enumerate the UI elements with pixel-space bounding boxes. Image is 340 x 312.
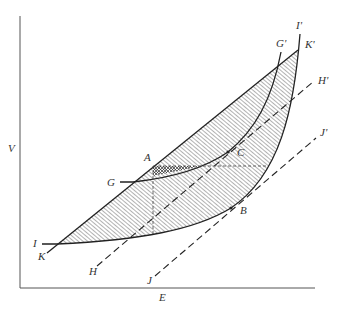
label-G: G <box>107 177 115 188</box>
label-J: J <box>147 275 152 286</box>
y-axis-label: V <box>8 143 15 154</box>
label-I: I <box>33 238 37 249</box>
point-C-marker <box>226 150 229 153</box>
label-C: C <box>237 147 244 158</box>
label-A: A <box>144 152 151 163</box>
label-G-prime: G' <box>276 38 286 49</box>
label-J-prime: J' <box>320 127 327 138</box>
point-B-marker <box>229 206 232 209</box>
x-axis-label: E <box>159 292 166 303</box>
label-H-prime: H' <box>318 75 328 86</box>
label-I-prime: I' <box>296 20 302 31</box>
label-K: K <box>38 251 45 262</box>
label-K-prime: K' <box>305 39 315 50</box>
diagram-canvas <box>0 0 340 312</box>
label-B: B <box>240 205 247 216</box>
label-H: H <box>89 266 97 277</box>
